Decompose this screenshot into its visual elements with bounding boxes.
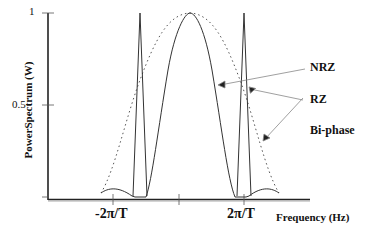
- x-tick-label-neg: -2π/T: [95, 206, 128, 222]
- legend-biphase: Bi-phase: [310, 123, 355, 138]
- x-tick-label-pos: 2π/T: [227, 206, 255, 222]
- y-tick-label-1: 1: [29, 5, 35, 17]
- series-rz: [101, 13, 279, 193]
- legend-nrz: NRZ: [310, 60, 335, 75]
- x-axis-label: Frequency (Hz): [276, 211, 349, 223]
- chart-canvas: [0, 0, 373, 232]
- series-biphase: [133, 13, 251, 196]
- legend-rz: RZ: [310, 92, 327, 107]
- y-axis-label: PowerSpectrum (W): [22, 55, 34, 165]
- series-nrz: [101, 13, 279, 197]
- legend-arrows: [218, 69, 305, 141]
